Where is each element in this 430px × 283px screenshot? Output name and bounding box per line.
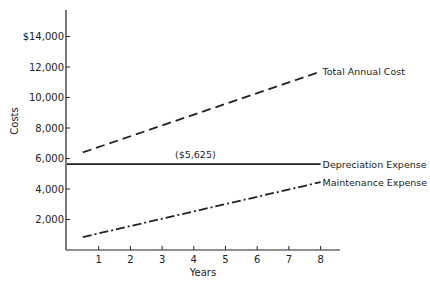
x-axis-title: Years [189,267,216,278]
maintenance-expense-label: Maintenance Expense [323,177,428,188]
y-axis-title: Costs [9,107,20,134]
y-ticks: 2,0004,0006,0008,00010,00012,000$14,000 [23,31,70,225]
x-tick-label: 8 [317,254,323,265]
x-tick-label: 5 [222,254,228,265]
x-ticks: 12345678 [96,246,324,265]
x-tick-label: 4 [191,254,197,265]
y-tick-label: 8,000 [35,123,64,134]
x-tick-label: 7 [286,254,292,265]
series-labels: Total Annual CostDepreciation Expense($5… [175,66,427,188]
depreciation-expense-label: Depreciation Expense [323,159,427,170]
x-tick-label: 3 [159,254,165,265]
y-tick-label: $14,000 [23,31,64,42]
total-annual-cost-label: Total Annual Cost [322,66,406,77]
x-tick-label: 2 [127,254,133,265]
y-tick-label: 10,000 [29,92,64,103]
y-tick-label: 2,000 [35,214,64,225]
total-annual-cost-line [83,72,321,153]
y-tick-label: 12,000 [29,62,64,73]
depreciation-value-annotation: ($5,625) [175,149,216,160]
x-tick-label: 1 [96,254,102,265]
maintenance-expense-line [83,182,321,237]
y-tick-label: 6,000 [35,153,64,164]
y-tick-label: 4,000 [35,184,64,195]
x-tick-label: 6 [254,254,260,265]
cost-chart: 2,0004,0006,0008,00010,00012,000$14,000 … [0,0,430,283]
